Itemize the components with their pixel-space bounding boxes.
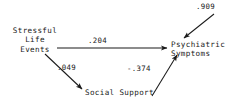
node-social-support: Social Support (85, 88, 154, 97)
coefficient-support-to-symptoms: -.374 (127, 65, 151, 73)
node-psychiatric-symptoms: Psychiatric Symptoms (171, 40, 225, 59)
node-stressful-life-events: Stressful Life Events (9, 26, 61, 54)
coefficient-direct-effect: .204 (88, 37, 107, 45)
edge-disturbance-to-symptoms (184, 14, 214, 38)
coefficient-disturbance: .909 (196, 3, 215, 11)
coefficient-events-to-support: .049 (57, 64, 76, 72)
edge-support-to-symptoms (152, 55, 177, 96)
path-diagram: Stressful Life Events Social Support Psy… (0, 0, 233, 105)
